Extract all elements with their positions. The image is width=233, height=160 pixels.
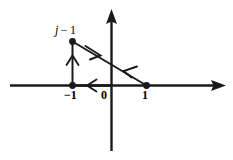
axis-tick-label-one: 1 [142, 89, 148, 101]
point-j-minus-1-dot [69, 38, 76, 45]
complex-plane-figure: j − 1 −1 0 1 [0, 0, 233, 160]
contour-diagram-svg [0, 0, 233, 160]
label-one-number: 1 [70, 23, 76, 37]
arrowhead-diagonal-up-left [124, 67, 138, 78]
contour-group [67, 42, 147, 92]
axis-tick-label-neg-one: −1 [64, 89, 77, 101]
segment-hypotenuse [73, 42, 147, 86]
label-minus-operator: − [58, 23, 70, 37]
axes-group [10, 9, 226, 151]
axis-tick-label-zero: 0 [101, 89, 107, 101]
label-vertex-j-minus-1: j − 1 [55, 24, 76, 36]
